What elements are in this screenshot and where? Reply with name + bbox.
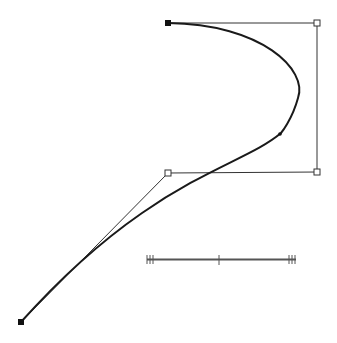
control-point-bottom-right[interactable] — [314, 169, 320, 175]
end-anchor[interactable] — [18, 319, 24, 325]
handle-line-middle — [168, 172, 317, 173]
scale-bar — [147, 255, 296, 265]
start-anchor[interactable] — [165, 20, 171, 26]
curve-midpoint-dot[interactable] — [278, 132, 282, 136]
bezier-canvas[interactable] — [0, 0, 337, 343]
control-point-top-right[interactable] — [314, 20, 320, 26]
control-point-left[interactable] — [165, 170, 171, 176]
